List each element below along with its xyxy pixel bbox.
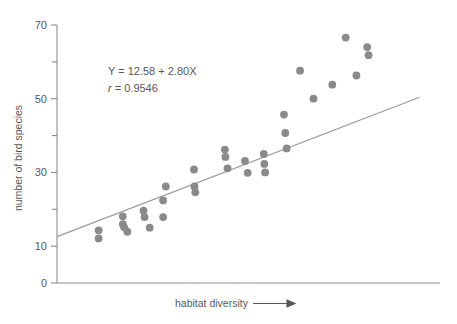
data-point (221, 146, 229, 154)
r-value: = 0.9546 (112, 82, 158, 94)
data-point (365, 51, 373, 59)
data-point (310, 95, 318, 103)
x-axis-title: habitat diversity (175, 297, 249, 309)
data-point (224, 164, 232, 172)
data-point (283, 145, 291, 153)
data-point (191, 188, 199, 196)
data-point (159, 197, 167, 205)
data-point (190, 166, 198, 174)
axis-ticks (51, 25, 57, 283)
chart-figure: 010305070 Y = 12.58 + 2.80X r = 0.9546 n… (0, 0, 457, 324)
data-point (146, 224, 154, 232)
y-axis-tick-label: 50 (35, 93, 47, 105)
y-axis-tick-label: 0 (41, 277, 47, 289)
data-point (123, 228, 131, 236)
axes (57, 25, 440, 283)
data-point (363, 43, 371, 51)
y-axis-tick-labels: 010305070 (35, 19, 47, 289)
y-axis-tick-label: 30 (35, 166, 47, 178)
regression-line (57, 97, 420, 236)
data-point (162, 183, 170, 191)
y-axis-title: number of bird species (12, 105, 24, 211)
data-point (95, 226, 103, 234)
data-point (261, 169, 269, 177)
regression-trend-line (57, 97, 420, 236)
correlation-coefficient-label: r = 0.9546 (108, 82, 158, 94)
scatter-plot: 010305070 Y = 12.58 + 2.80X r = 0.9546 n… (0, 0, 457, 324)
x-axis-direction-arrow-icon (253, 300, 295, 307)
data-point (342, 34, 350, 42)
data-point (241, 157, 249, 165)
data-point (119, 212, 127, 220)
data-point (141, 213, 149, 221)
data-point (280, 111, 288, 119)
data-point (95, 235, 103, 243)
data-point (244, 169, 252, 177)
regression-equation-label: Y = 12.58 + 2.80X (108, 65, 197, 77)
y-axis-tick-label: 10 (35, 240, 47, 252)
data-point (281, 129, 289, 137)
data-point (159, 213, 167, 221)
data-point (260, 150, 268, 158)
data-point (328, 81, 336, 89)
data-point (353, 72, 361, 80)
data-point (221, 153, 229, 161)
data-point (296, 67, 304, 75)
data-point (260, 160, 268, 168)
y-axis-tick-label: 70 (35, 19, 47, 31)
